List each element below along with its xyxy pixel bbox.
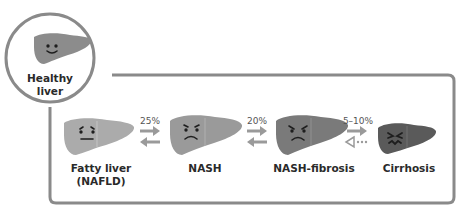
healthy-label-line2: liver bbox=[16, 85, 84, 98]
healthy-label-line1: Healthy bbox=[16, 72, 84, 85]
transition-percent-1: 25% bbox=[136, 116, 164, 126]
nafld-progression-diagram: Healthy liver Fatty liver (NAFLD) NASH N… bbox=[0, 0, 463, 217]
nash-liver-icon bbox=[170, 115, 242, 155]
forward-arrow-icon bbox=[347, 126, 367, 136]
nash-fibrosis-label-line1: NASH-fibrosis bbox=[266, 162, 362, 175]
transition-arrows-2 bbox=[247, 126, 267, 147]
fatty-liver-label: Fatty liver (NAFLD) bbox=[58, 162, 144, 188]
nash-label: NASH bbox=[168, 162, 242, 175]
nash-label-line1: NASH bbox=[168, 162, 242, 175]
fatty-label-line1: Fatty liver bbox=[58, 162, 144, 175]
cirrhosis-label: Cirrhosis bbox=[374, 162, 444, 175]
reverse-arrow-icon bbox=[247, 137, 267, 147]
cirrhosis-liver-icon bbox=[378, 123, 436, 154]
dotted-reverse-arrow-icon bbox=[346, 137, 367, 147]
forward-arrow-icon bbox=[140, 126, 160, 136]
transition-percent-2: 20% bbox=[243, 116, 271, 126]
reverse-arrow-icon bbox=[140, 137, 160, 147]
forward-arrow-icon bbox=[247, 126, 267, 136]
transition-arrows-1 bbox=[140, 126, 160, 147]
transition-percent-3: 5–10% bbox=[338, 116, 378, 126]
fatty-label-line2: (NAFLD) bbox=[58, 175, 144, 188]
fatty-liver-icon bbox=[64, 118, 134, 155]
cirrhosis-label-line1: Cirrhosis bbox=[374, 162, 444, 175]
nash-fibrosis-label: NASH-fibrosis bbox=[266, 162, 362, 175]
transition-arrows-3 bbox=[346, 126, 367, 147]
healthy-liver-label: Healthy liver bbox=[16, 72, 84, 98]
